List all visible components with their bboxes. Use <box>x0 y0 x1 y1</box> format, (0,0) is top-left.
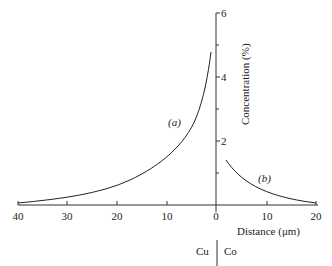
curve-b <box>226 160 316 203</box>
curve-a-label: (a) <box>168 116 181 129</box>
svg-text:40: 40 <box>13 210 25 222</box>
svg-text:0: 0 <box>213 210 219 222</box>
svg-text:6: 6 <box>221 7 227 19</box>
diffusion-chart: 40 30 20 10 0 10 20 2 4 6 Concentration … <box>0 0 332 266</box>
svg-text:10: 10 <box>162 210 174 222</box>
x-tick-labels: 40 30 20 10 0 10 20 <box>13 210 323 222</box>
svg-text:4: 4 <box>221 71 227 83</box>
svg-text:30: 30 <box>62 210 74 222</box>
svg-text:10: 10 <box>262 210 274 222</box>
x-axis <box>18 201 318 205</box>
y-axis <box>216 13 220 212</box>
y-axis-label: Concentration (%) <box>239 43 252 125</box>
svg-text:20: 20 <box>311 210 323 222</box>
y-tick-labels: 2 4 6 <box>221 7 227 147</box>
x-axis-label: Distance (μm) <box>237 225 300 238</box>
svg-text:20: 20 <box>112 210 124 222</box>
curve-a <box>18 52 211 203</box>
curve-b-label: (b) <box>258 172 271 185</box>
svg-text:2: 2 <box>221 135 227 147</box>
cu-label: Cu <box>196 245 209 257</box>
co-label: Co <box>224 245 237 257</box>
